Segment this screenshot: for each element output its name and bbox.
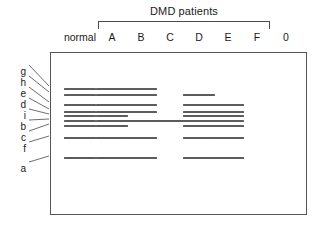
row-label-d: d (14, 99, 26, 110)
band-E-i (212, 115, 244, 117)
gel-box (50, 52, 307, 215)
band-D-b (183, 120, 215, 122)
leader-line-c (29, 124, 49, 131)
band-normal-b (64, 120, 96, 122)
row-label-a: a (14, 163, 26, 174)
band-normal-g (64, 88, 96, 90)
leader-line-a (29, 156, 49, 162)
band-A-i (96, 115, 128, 117)
row-label-i: i (14, 110, 26, 121)
band-D-h (183, 94, 215, 96)
band-D-i (183, 115, 215, 117)
leader-line-g (29, 65, 49, 86)
band-D-d (183, 111, 215, 113)
band-E-d (212, 111, 244, 113)
row-label-f: f (14, 143, 26, 154)
group-caption: DMD patients (98, 5, 270, 18)
band-E-e (212, 104, 244, 106)
leader-line-d (29, 98, 49, 109)
band-D-e (183, 104, 215, 106)
group-bracket (98, 21, 270, 29)
band-normal-c (64, 125, 96, 127)
row-label-g: g (14, 66, 26, 77)
band-A-h (96, 94, 128, 96)
band-normal-e (64, 104, 96, 106)
row-label-c: c (14, 132, 26, 143)
band-B-f (125, 137, 157, 139)
band-E-b (212, 120, 244, 122)
band-normal-a (64, 157, 96, 159)
lane-label-0: 0 (260, 31, 312, 43)
band-B-b (125, 120, 157, 122)
leader-line-f (29, 136, 49, 142)
band-normal-h (64, 94, 96, 96)
leader-line-h (29, 76, 49, 92)
leader-line-i (29, 109, 49, 114)
band-normal-f (64, 137, 96, 139)
band-E-c (212, 125, 244, 127)
band-B-a (125, 157, 157, 159)
band-B-g (125, 88, 157, 90)
leader-line-b (29, 119, 49, 120)
band-B-d (125, 111, 157, 113)
band-D-f (183, 137, 215, 139)
band-A-c (96, 125, 128, 127)
band-D-c (183, 125, 215, 127)
band-normal-d (64, 111, 96, 113)
band-B-e (125, 104, 157, 106)
band-A-a (96, 157, 128, 159)
band-B-h (125, 94, 157, 96)
band-E-a (212, 157, 244, 159)
band-A-d (96, 111, 128, 113)
band-A-b (96, 120, 128, 122)
band-A-g (96, 88, 128, 90)
band-E-f (212, 137, 244, 139)
band-D-a (183, 157, 215, 159)
band-A-f (96, 137, 128, 139)
band-A-e (96, 104, 128, 106)
row-label-b: b (14, 121, 26, 132)
band-C-b (154, 120, 186, 122)
row-label-e: e (14, 88, 26, 99)
leader-line-e (29, 87, 49, 102)
band-normal-i (64, 115, 96, 117)
gel-figure: DMD patients normalABCDEF0 ghedibcfa (0, 0, 328, 233)
row-label-h: h (14, 77, 26, 88)
